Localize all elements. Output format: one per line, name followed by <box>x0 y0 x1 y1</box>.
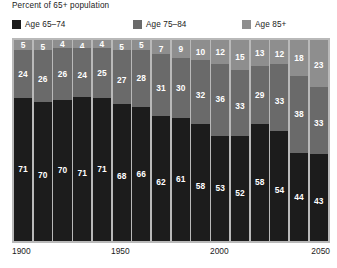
bar-2010[interactable]: 153352 <box>231 40 249 241</box>
segment-value-label: 5 <box>21 41 26 49</box>
bar-2020[interactable]: 132958 <box>251 40 269 241</box>
segment-value-label: 68 <box>117 172 127 180</box>
segment-value-label: 36 <box>215 95 225 103</box>
segment-age-75-84[interactable]: 26 <box>53 48 71 100</box>
segment-age-65-74[interactable]: 66 <box>132 107 150 241</box>
bar-1940[interactable]: 42571 <box>93 40 111 241</box>
segment-age-75-84[interactable]: 27 <box>113 50 131 104</box>
segment-value-label: 33 <box>275 97 285 105</box>
legend-item-age-75-84: Age 75–84 <box>133 18 187 30</box>
segment-age-85-plus[interactable]: 5 <box>34 40 52 50</box>
segment-age-65-74[interactable]: 71 <box>14 98 32 241</box>
bar-1960[interactable]: 52866 <box>132 40 150 241</box>
segment-age-75-84[interactable]: 30 <box>172 58 190 118</box>
segment-age-75-84[interactable]: 38 <box>290 76 308 152</box>
segment-age-65-74[interactable]: 53 <box>211 136 229 241</box>
segment-age-65-74[interactable]: 62 <box>152 116 170 241</box>
segment-value-label: 53 <box>215 184 225 192</box>
segment-age-75-84[interactable]: 33 <box>310 87 328 154</box>
segment-age-85-plus[interactable]: 13 <box>251 40 269 66</box>
segment-age-65-74[interactable]: 58 <box>191 124 209 241</box>
x-axis-tick-label: 2050 <box>311 246 330 256</box>
segment-value-label: 23 <box>314 61 324 69</box>
segment-age-65-74[interactable]: 44 <box>290 153 308 241</box>
segment-value-label: 38 <box>294 110 304 118</box>
segment-value-label: 10 <box>196 47 206 55</box>
segment-age-85-plus[interactable]: 5 <box>132 40 150 50</box>
segment-value-label: 32 <box>196 91 206 99</box>
segment-value-label: 54 <box>275 186 285 194</box>
segment-value-label: 31 <box>156 84 166 92</box>
bar-1910[interactable]: 52670 <box>34 40 52 241</box>
segment-value-label: 7 <box>159 44 164 52</box>
segment-age-75-84[interactable]: 33 <box>231 70 249 136</box>
segment-value-label: 13 <box>255 49 265 57</box>
bar-1950[interactable]: 52768 <box>113 40 131 241</box>
segment-age-75-84[interactable]: 25 <box>93 48 111 98</box>
segment-age-85-plus[interactable]: 15 <box>231 40 249 70</box>
segment-age-75-84[interactable]: 26 <box>34 50 52 102</box>
segment-age-85-plus[interactable]: 9 <box>172 40 190 58</box>
segment-value-label: 24 <box>77 71 87 79</box>
segment-value-label: 28 <box>137 74 147 82</box>
bar-2050[interactable]: 233343 <box>310 40 328 241</box>
segment-age-85-plus[interactable]: 5 <box>14 40 32 50</box>
segment-age-75-84[interactable]: 36 <box>211 64 229 136</box>
segment-age-75-84[interactable]: 24 <box>73 48 91 97</box>
segment-age-65-74[interactable]: 68 <box>113 104 131 241</box>
segment-age-85-plus[interactable]: 4 <box>93 40 111 48</box>
segment-value-label: 26 <box>38 75 48 83</box>
bar-1920[interactable]: 42670 <box>53 40 71 241</box>
segment-value-label: 43 <box>314 197 324 205</box>
segment-value-label: 58 <box>255 178 265 186</box>
segment-age-65-74[interactable]: 70 <box>53 100 71 241</box>
segment-age-65-74[interactable]: 61 <box>172 118 190 241</box>
segment-value-label: 52 <box>235 189 245 197</box>
bar-1990[interactable]: 103258 <box>191 40 209 241</box>
segment-value-label: 26 <box>58 70 68 78</box>
legend-label: Age 65–74 <box>25 20 66 29</box>
segment-age-65-74[interactable]: 52 <box>231 136 249 241</box>
chart-title: Percent of 65+ population <box>12 1 109 10</box>
bar-2040[interactable]: 183844 <box>290 40 308 241</box>
segment-age-85-plus[interactable]: 12 <box>211 40 229 64</box>
segment-age-75-84[interactable]: 24 <box>14 50 32 98</box>
segment-age-85-plus[interactable]: 7 <box>152 40 170 54</box>
segment-age-85-plus[interactable]: 4 <box>73 40 91 48</box>
legend-swatch-icon <box>12 20 21 29</box>
segment-value-label: 4 <box>100 40 105 48</box>
segment-age-85-plus[interactable]: 10 <box>191 40 209 60</box>
segment-value-label: 30 <box>176 84 186 92</box>
segment-age-65-74[interactable]: 71 <box>93 98 111 241</box>
segment-value-label: 4 <box>80 41 85 48</box>
segment-age-65-74[interactable]: 70 <box>34 102 52 241</box>
segment-age-75-84[interactable]: 33 <box>270 64 288 131</box>
segment-value-label: 12 <box>215 48 225 56</box>
bar-2000[interactable]: 123653 <box>211 40 229 241</box>
segment-age-85-plus[interactable]: 5 <box>113 40 131 50</box>
segment-age-65-74[interactable]: 54 <box>270 131 288 241</box>
segment-age-65-74[interactable]: 58 <box>251 124 269 241</box>
bar-1930[interactable]: 42471 <box>73 40 91 241</box>
segment-value-label: 25 <box>97 69 107 77</box>
segment-age-75-84[interactable]: 31 <box>152 54 170 116</box>
segment-age-85-plus[interactable]: 12 <box>270 40 288 64</box>
segment-age-85-plus[interactable]: 18 <box>290 40 308 76</box>
segment-value-label: 66 <box>137 170 147 178</box>
x-axis-tick-label: 1900 <box>12 246 31 256</box>
bar-2030[interactable]: 123354 <box>270 40 288 241</box>
chart-figure: Percent of 65+ population Age 65–74 Age … <box>0 0 337 268</box>
bar-1980[interactable]: 93061 <box>172 40 190 241</box>
segment-age-65-74[interactable]: 43 <box>310 154 328 241</box>
segment-value-label: 5 <box>139 41 144 49</box>
segment-age-85-plus[interactable]: 23 <box>310 40 328 87</box>
segment-age-75-84[interactable]: 28 <box>132 50 150 107</box>
segment-age-75-84[interactable]: 32 <box>191 60 209 124</box>
segment-age-85-plus[interactable]: 4 <box>53 40 71 48</box>
segment-value-label: 71 <box>18 165 28 173</box>
segment-age-75-84[interactable]: 29 <box>251 66 269 124</box>
segment-age-65-74[interactable]: 71 <box>73 97 91 241</box>
segment-value-label: 15 <box>235 52 245 60</box>
bar-1900[interactable]: 52471 <box>14 40 32 241</box>
bar-1970[interactable]: 73162 <box>152 40 170 241</box>
